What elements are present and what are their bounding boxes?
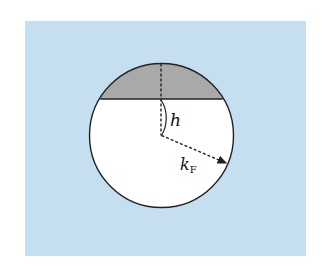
fermi-sphere-diagram: h kF xyxy=(0,0,329,266)
label-kf-sub: F xyxy=(190,164,197,175)
label-kf-main: k xyxy=(180,155,190,174)
label-h: h xyxy=(170,110,181,130)
